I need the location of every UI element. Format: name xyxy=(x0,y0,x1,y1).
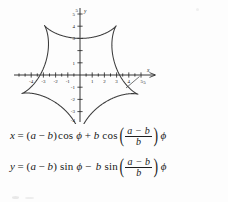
y-tick-label: -3 xyxy=(71,109,76,114)
x-axis-end-label: 5 xyxy=(143,80,146,85)
eq2-phi2: ϕ xyxy=(160,160,167,172)
eq2-denominator: b xyxy=(125,168,152,178)
x-tick-label: -4 xyxy=(29,79,34,84)
x-tick-label: 1 xyxy=(91,79,94,84)
eq2-fraction: a − bb xyxy=(125,157,152,178)
x-tick-label: -2 xyxy=(54,79,59,84)
y-axis-label: y xyxy=(83,8,87,14)
figure-page: -4 -3 -2 -1 1 2 3 4 5 5 4 3 1 -1 -2 -3 -… xyxy=(0,0,228,202)
x-tick-label: -3 xyxy=(41,79,46,84)
eq1-phi2: ϕ xyxy=(159,129,166,141)
eq1-minus: − xyxy=(36,129,47,141)
eq2-numerator: a − b xyxy=(125,157,152,168)
scan-speck xyxy=(196,8,199,11)
hypocycloid-curve xyxy=(23,13,141,124)
eq2-minus2: − xyxy=(82,160,93,172)
eq2-sin: sin xyxy=(57,160,73,172)
eq1-cos: cos xyxy=(57,129,73,141)
hypocycloid-figure: -4 -3 -2 -1 1 2 3 4 5 5 4 3 1 -1 -2 -3 -… xyxy=(8,2,168,124)
eq2-equals: = xyxy=(15,160,26,172)
y-tick-label: -1 xyxy=(71,85,76,90)
y-tick-label: -2 xyxy=(71,97,76,102)
eq1-cos2: cos xyxy=(99,129,117,141)
scan-speck xyxy=(12,196,19,199)
y-tick-label: 4 xyxy=(73,24,76,29)
axes xyxy=(14,8,156,122)
eq2-b2: b xyxy=(94,160,102,172)
eq1-phi: ϕ xyxy=(73,129,82,141)
eq2-sin2: sin xyxy=(102,160,118,172)
eq1-numerator: a − b xyxy=(125,126,152,137)
x-tick-label: 2 xyxy=(103,79,106,84)
x-tick-label: -1 xyxy=(66,79,71,84)
eq1-plus: + xyxy=(82,129,93,141)
eq1-fraction: a − bb xyxy=(125,126,152,147)
eq1-denominator: b xyxy=(125,137,152,147)
x-tick-labels: -4 -3 -2 -1 1 2 3 4 5 xyxy=(29,79,143,84)
y-tick-label: 1 xyxy=(73,61,76,66)
scan-speck xyxy=(25,197,34,199)
eq2-minus: − xyxy=(36,160,47,172)
x-axis-label: x xyxy=(146,67,150,73)
equation-y: y=(a−b)sinϕ−bsin(a − bb)ϕ xyxy=(10,157,167,178)
y-axis-top-label: 5 xyxy=(76,8,79,13)
eq1-equals: = xyxy=(15,129,26,141)
x-tick-label: 4 xyxy=(128,79,131,84)
equation-x: x=(a−b)cosϕ+bcos(a − bb)ϕ xyxy=(10,126,166,147)
x-tick-label: 3 xyxy=(115,79,118,84)
y-tick-labels: 5 4 3 1 -1 -2 -3 -4 xyxy=(71,12,76,123)
y-tick-label: 3 xyxy=(73,36,76,41)
